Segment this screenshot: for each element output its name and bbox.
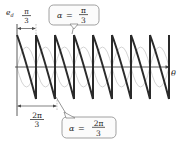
envelope-arc-lower	[17, 67, 36, 87]
callout-bottom-equals: =	[78, 124, 85, 133]
rectifier-waveform-figure: e d θ π 3 2π 3 α = π 3 α = 2π 3	[0, 0, 181, 142]
dimension-arrowhead-right	[32, 27, 36, 30]
dimension-label-pi-3-numerator: π	[24, 8, 29, 16]
dimension-label-pi-3-denominator: 3	[24, 17, 28, 25]
envelope-arc-lower	[93, 67, 112, 87]
x-axis-label: θ	[171, 69, 176, 78]
callout-bottom-symbol: α	[69, 124, 75, 133]
envelope-arc-lower	[55, 67, 74, 87]
callout-top-numerator: π	[81, 6, 86, 15]
waveform-diagram-canvas: e d θ π 3 2π 3 α = π 3 α = 2π 3	[0, 0, 181, 142]
dimension-arrowhead-left	[17, 105, 21, 108]
dimension-arrowhead-right	[53, 105, 57, 108]
callout-top-symbol: α	[57, 11, 63, 20]
dimension-arrowhead-left	[17, 27, 21, 30]
envelope-arc-lower	[112, 67, 131, 87]
dimension-label-2pi-3-denominator: 3	[35, 120, 40, 129]
callout-top-denominator: 3	[81, 16, 86, 25]
callout-top-equals: =	[66, 11, 73, 20]
dimension-label-2pi-3-numerator: 2π	[32, 111, 42, 120]
envelope-arc-lower	[74, 67, 93, 87]
callout-tail-top	[70, 24, 78, 29]
callout-leaders-group	[56, 25, 74, 117]
envelope-arc-lower	[131, 67, 150, 87]
y-axis-label-subscript: d	[11, 12, 14, 18]
envelope-arc-lower	[150, 67, 169, 87]
dimension-pi-3-group	[17, 24, 36, 34]
callout-bottom-denominator: 3	[96, 129, 101, 138]
callout-tail-bottom	[64, 112, 75, 118]
envelope-arc-lower	[36, 67, 55, 87]
callout-bottom-numerator: 2π	[94, 119, 104, 128]
dimension-2pi-3-group	[17, 100, 57, 110]
